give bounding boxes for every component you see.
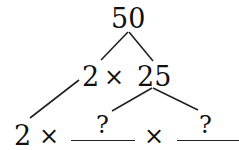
unknown-factor-2: ?: [199, 113, 212, 137]
answer-blank-1[interactable]: [71, 140, 135, 141]
unknown-factor-1: ?: [96, 113, 109, 137]
level1-multiply-sign: ×: [104, 65, 124, 89]
level2-multiply-sign-2: ×: [144, 124, 164, 148]
level1-left-factor: 2: [82, 63, 99, 90]
level2-multiply-sign-1: ×: [39, 124, 59, 148]
branch-50-to-2: [101, 32, 128, 60]
level1-right-factor: 25: [137, 63, 171, 90]
branch-50-to-25: [129, 32, 153, 61]
answer-blank-2[interactable]: [177, 140, 239, 141]
branch-2-to-2: [30, 80, 79, 118]
root-number: 50: [111, 5, 145, 32]
level2-factor: 2: [14, 122, 31, 149]
